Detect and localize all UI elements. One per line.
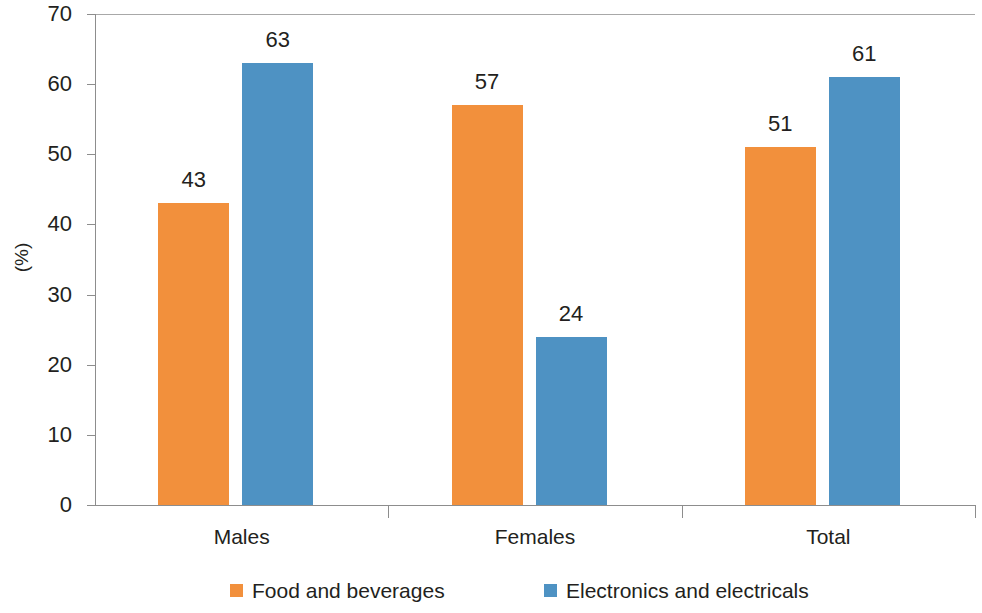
x-axis-separator — [388, 505, 389, 518]
y-tick-label: 0 — [0, 494, 72, 516]
legend-item[interactable]: Electronics and electricals — [544, 580, 809, 601]
y-tick-label: 50 — [0, 143, 72, 165]
bar-chart: (%) 706050403020100 436357245161 MalesFe… — [0, 0, 982, 613]
y-tick-mark — [87, 154, 95, 155]
bar-value-label: 57 — [475, 71, 499, 93]
y-tick-label: 60 — [0, 73, 72, 95]
plot-area — [95, 14, 975, 505]
legend-swatch-icon — [544, 584, 557, 597]
y-tick-mark — [87, 84, 95, 85]
y-tick-mark — [87, 505, 95, 506]
bar — [158, 203, 229, 505]
y-tick-mark — [87, 295, 95, 296]
chart-legend: Food and beveragesElectronics and electr… — [0, 580, 982, 613]
bar-value-label: 63 — [265, 29, 289, 51]
y-tick-mark — [87, 365, 95, 366]
legend-swatch-icon — [230, 584, 243, 597]
x-tick-label: Males — [214, 526, 270, 547]
bar — [536, 337, 607, 505]
bar — [745, 147, 816, 505]
y-tick-label: 20 — [0, 354, 72, 376]
y-tick-mark — [87, 224, 95, 225]
y-tick-label: 70 — [0, 3, 72, 25]
x-axis-separator — [682, 505, 683, 518]
y-axis-title: (%) — [12, 228, 31, 288]
bar — [452, 105, 523, 505]
legend-item[interactable]: Food and beverages — [230, 580, 445, 601]
bar-value-label: 24 — [559, 303, 583, 325]
x-tick-label: Total — [806, 526, 850, 547]
x-tick-label: Females — [495, 526, 576, 547]
y-tick-mark — [87, 435, 95, 436]
x-axis-line — [95, 505, 975, 506]
x-axis-separator — [975, 505, 976, 518]
bar-value-label: 61 — [852, 43, 876, 65]
bar-value-label: 51 — [768, 113, 792, 135]
legend-label: Food and beverages — [252, 580, 445, 601]
y-tick-mark — [87, 14, 95, 15]
y-tick-label: 10 — [0, 424, 72, 446]
bar-value-label: 43 — [181, 169, 205, 191]
legend-label: Electronics and electricals — [566, 580, 809, 601]
y-tick-label: 40 — [0, 213, 72, 235]
bar — [242, 63, 313, 505]
y-tick-label: 30 — [0, 284, 72, 306]
bar — [829, 77, 900, 505]
